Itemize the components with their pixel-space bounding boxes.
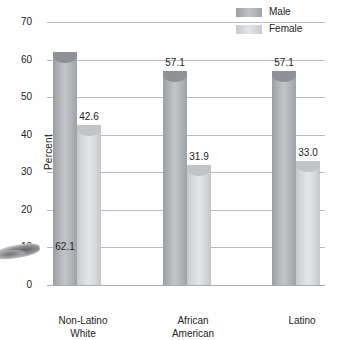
axis-baseline xyxy=(47,285,325,286)
ytick-label-40: 40 xyxy=(0,130,32,140)
ytick-label-50: 50 xyxy=(0,92,32,102)
gridline-70 xyxy=(47,22,325,23)
bar-female-non-latino-white xyxy=(77,125,101,285)
bar-body xyxy=(163,71,187,286)
category-label-latino: Latino xyxy=(242,314,337,327)
bar-cap xyxy=(163,71,187,85)
bar-value-male-latino: 57.1 xyxy=(264,57,304,68)
bar-body xyxy=(187,165,211,285)
category-label-line1: Non-Latino xyxy=(23,314,143,327)
bar-value-male-african-american: 57.1 xyxy=(155,57,195,68)
bar-male-african-american xyxy=(163,71,187,286)
bar-body xyxy=(77,125,101,285)
legend-swatch-male-icon xyxy=(236,8,262,17)
bar-cap xyxy=(187,165,211,179)
category-label-line1: African xyxy=(133,314,253,327)
legend-item-male: Male xyxy=(236,5,332,19)
bar-body xyxy=(272,71,296,286)
bar-female-latino xyxy=(296,161,320,285)
ytick-label-0: 0 xyxy=(0,280,32,290)
legend-label-male: Male xyxy=(269,7,291,17)
bar-cap xyxy=(272,71,296,85)
category-label-african-american: African American xyxy=(133,314,253,340)
bar-female-african-american xyxy=(187,165,211,285)
category-label-line1: Latino xyxy=(242,314,337,327)
bar-value-female-african-american: 31.9 xyxy=(179,151,219,162)
ytick-label-30: 30 xyxy=(0,167,32,177)
category-label-line2: White xyxy=(23,327,143,340)
bar-value-female-latino: 33.0 xyxy=(288,147,328,158)
y-axis-title: Percent xyxy=(43,134,54,170)
ytick-label-60: 60 xyxy=(0,55,32,65)
category-label-line2: American xyxy=(133,327,253,340)
category-label-non-latino-white: Non-Latino White xyxy=(23,314,143,340)
bar-cap xyxy=(296,161,320,175)
ytick-label-20: 20 xyxy=(0,205,32,215)
bar-male-latino xyxy=(272,71,296,286)
ytick-label-70: 70 xyxy=(0,17,32,27)
bar-value-female-non-latino-white: 42.6 xyxy=(69,111,109,122)
bar-cap xyxy=(77,125,101,139)
bar-cap xyxy=(53,52,77,66)
scan-artifact-smudge-inner xyxy=(0,248,26,261)
plot-area: 70 60 50 40 30 20 10 0 62.1 42.6 57.1 31… xyxy=(47,22,325,285)
bar-body xyxy=(296,161,320,285)
